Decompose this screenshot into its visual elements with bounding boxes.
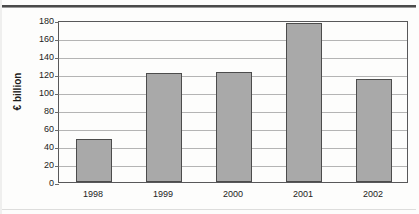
y-axis-tickmark [55, 166, 59, 167]
scan-rule-top-secondary [2, 7, 416, 8]
plot-area [58, 21, 408, 183]
bar [216, 72, 252, 182]
y-axis-tickmark [55, 94, 59, 95]
bar [76, 139, 112, 182]
gridline [59, 40, 407, 41]
gridline [59, 58, 407, 59]
bar-chart-figure: € billion 180160140120100806040200 19981… [0, 0, 419, 214]
y-axis-tick-label: 180 [30, 17, 54, 26]
y-axis-tickmark [55, 58, 59, 59]
x-axis-tick-label: 1998 [63, 189, 123, 199]
y-axis-tick-label: 100 [30, 89, 54, 98]
bar [146, 73, 182, 182]
scan-rule-bottom [2, 209, 416, 210]
y-axis-tick-labels: 180160140120100806040200 [28, 0, 54, 214]
x-axis-tick-labels: 19981999200020012002 [58, 189, 408, 203]
x-axis-tick-label: 2001 [273, 189, 333, 199]
x-axis-tick-label: 2002 [343, 189, 403, 199]
y-axis-tick-label: 120 [30, 71, 54, 80]
x-axis-tick-label: 1999 [133, 189, 193, 199]
y-axis-tickmark [55, 130, 59, 131]
x-axis-tick-label: 2000 [203, 189, 263, 199]
y-axis-tickmark [55, 40, 59, 41]
y-axis-tick-label: 60 [30, 125, 54, 134]
y-axis-tick-label: 80 [30, 107, 54, 116]
y-axis-tickmark [55, 76, 59, 77]
bar [286, 23, 322, 182]
y-axis-tick-label: 20 [30, 161, 54, 170]
bar [356, 79, 392, 182]
y-axis-tickmark [55, 112, 59, 113]
y-axis-tickmark [55, 22, 59, 23]
y-axis-tickmark [55, 148, 59, 149]
y-axis-tickmark [55, 184, 59, 185]
y-axis-tick-label: 160 [30, 35, 54, 44]
scan-edge-artifact [0, 0, 2, 214]
y-axis-tick-label: 0 [30, 179, 54, 188]
y-axis-tick-label: 140 [30, 53, 54, 62]
y-axis-tick-label: 40 [30, 143, 54, 152]
y-axis-title: € billion [12, 57, 23, 127]
